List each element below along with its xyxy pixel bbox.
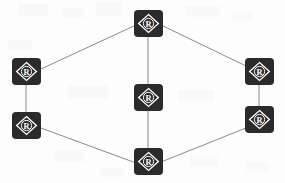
- node-graph-canvas: Rnode-top-centerRnode-left-upperRnode-ri…: [0, 0, 285, 183]
- registered-trademark-diamond-icon: R: [137, 13, 160, 34]
- registered-trademark-diamond-icon: R: [15, 115, 38, 136]
- registered-trademark-diamond-icon: R: [137, 87, 160, 108]
- registered-trademark-diamond-icon: R: [15, 61, 38, 82]
- graph-node[interactable]: Rnode-left-upper: [12, 58, 41, 85]
- graph-node[interactable]: Rnode-right-upper: [245, 58, 274, 85]
- graph-node[interactable]: Rnode-top-center: [134, 10, 163, 37]
- graph-edge: [161, 25, 246, 66]
- node-glyph-letter: R: [256, 116, 263, 125]
- graph-edge: [161, 128, 246, 162]
- registered-trademark-diamond-icon: R: [137, 151, 160, 172]
- graph-edge: [41, 128, 136, 163]
- node-glyph-letter: R: [145, 158, 152, 167]
- graph-node[interactable]: Rnode-bottom-center: [134, 148, 163, 175]
- node-glyph-letter: R: [23, 122, 30, 131]
- registered-trademark-diamond-icon: R: [248, 61, 271, 82]
- node-glyph-letter: R: [256, 68, 263, 77]
- graph-node[interactable]: Rnode-left-lower: [12, 112, 41, 139]
- graph-node[interactable]: Rnode-center-middle: [134, 84, 163, 111]
- node-glyph-letter: R: [145, 94, 152, 103]
- node-glyph-letter: R: [145, 20, 152, 29]
- registered-trademark-diamond-icon: R: [248, 109, 271, 130]
- node-glyph-letter: R: [23, 68, 30, 77]
- graph-edge: [41, 25, 136, 69]
- graph-node[interactable]: Rnode-right-lower: [245, 106, 274, 133]
